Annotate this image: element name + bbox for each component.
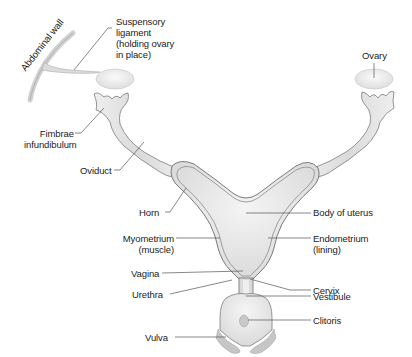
label-suspensory-ligament: Suspensory ligament (holding ovary in pl…: [116, 16, 174, 60]
label-oviduct: Oviduct: [80, 165, 112, 176]
label-myometrium: Myometrium (muscle): [110, 233, 174, 255]
label-vagina: Vagina: [131, 268, 159, 279]
label-ovary: Ovary: [362, 50, 387, 61]
suspensory-ligament: [42, 62, 100, 73]
label-fimbrae-infundibulum: Fimbrae infundibulum: [24, 128, 74, 150]
right-oviduct: [304, 92, 394, 178]
left-ovary: [96, 69, 134, 89]
label-vulva: Vulva: [145, 332, 168, 343]
label-body-of-uterus: Body of uterus: [313, 207, 373, 218]
clitoris: [240, 315, 249, 327]
label-clitoris: Clitoris: [313, 315, 341, 326]
reproductive-tract-diagram: Abdominal wall Suspensory ligament (hold…: [0, 0, 412, 357]
label-endometrium: Endometrium (lining): [313, 233, 368, 255]
label-vestibule: Vestibule: [313, 291, 351, 302]
label-horn: Horn: [139, 207, 159, 218]
label-urethra: Urethra: [132, 289, 163, 300]
uterus: [171, 161, 319, 280]
